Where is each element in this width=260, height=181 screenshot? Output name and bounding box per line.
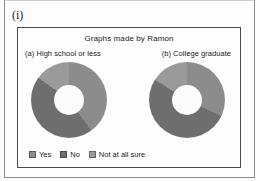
chart-legend: YesNoNot at all sure (29, 149, 145, 160)
subtitle-chart-a: (a) High school or less (25, 49, 101, 58)
donut-chart-high-school (31, 62, 107, 138)
donut-hole (54, 85, 84, 115)
donut-chart-college-graduate (149, 62, 225, 138)
donut-hole (172, 85, 202, 115)
chart-title: Graphs made by Ramon (18, 34, 240, 43)
legend-label: Yes (39, 150, 51, 159)
legend-swatch-icon (89, 151, 96, 158)
item-marker: (i) (12, 9, 23, 22)
legend-swatch-icon (29, 151, 36, 158)
legend-swatch-icon (60, 151, 67, 158)
legend-label: Not at all sure (99, 150, 145, 159)
legend-item: Not at all sure (89, 150, 145, 159)
figure-page: (i) Graphs made by Ramon (a) High school… (0, 0, 260, 181)
donut-row (18, 61, 240, 143)
legend-label: No (70, 150, 80, 159)
subtitle-row: (a) High school or less (b) College grad… (18, 49, 240, 60)
chart-panel: Graphs made by Ramon (a) High school or … (17, 27, 241, 168)
subtitle-chart-b: (b) College graduate (162, 49, 231, 58)
legend-item: Yes (29, 150, 51, 159)
legend-item: No (60, 150, 80, 159)
